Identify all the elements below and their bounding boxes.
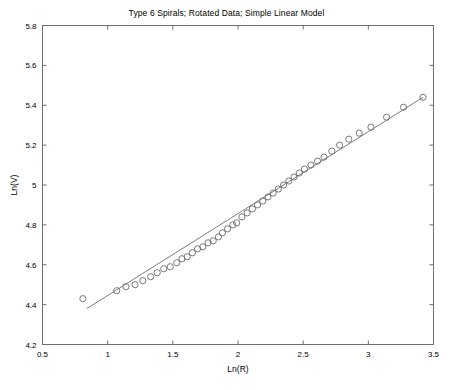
- y-tick-label: 5.8: [25, 22, 37, 31]
- x-axis-title: Ln(R): [227, 364, 248, 374]
- x-tick-label: 1.5: [167, 350, 179, 359]
- y-axis-tick-labels: 4.24.44.64.855.25.45.65.8: [25, 22, 37, 350]
- data-point: [301, 166, 307, 172]
- data-point: [329, 148, 335, 154]
- y-tick-label: 5: [32, 181, 37, 190]
- data-point: [215, 234, 221, 240]
- y-tick-label: 5.4: [25, 101, 37, 110]
- y-tick-label: 4.8: [25, 221, 37, 230]
- data-point: [234, 220, 240, 226]
- x-tick-label: 2.5: [298, 350, 310, 359]
- data-point: [337, 142, 343, 148]
- data-point: [132, 282, 138, 288]
- chart-figure: Type 6 Spirals; Rotated Data; Simple Lin…: [0, 0, 453, 390]
- x-tick-label: 1: [105, 350, 110, 359]
- y-axis-title: Ln(V): [9, 174, 19, 195]
- data-point: [154, 270, 160, 276]
- data-point: [148, 274, 154, 280]
- data-point: [140, 278, 146, 284]
- data-point: [80, 296, 86, 302]
- data-point: [383, 114, 389, 120]
- x-tick-label: 0.5: [37, 350, 49, 359]
- y-tick-label: 4.4: [25, 301, 37, 310]
- data-point: [346, 136, 352, 142]
- x-tick-label: 3: [366, 350, 371, 359]
- y-tick-label: 5.2: [25, 141, 37, 150]
- x-tick-label: 3.5: [428, 350, 440, 359]
- data-point: [161, 266, 167, 272]
- y-tick-label: 5.6: [25, 61, 37, 70]
- data-point: [368, 124, 374, 130]
- data-point: [230, 222, 236, 228]
- x-tick-label: 2: [236, 350, 241, 359]
- data-point: [356, 130, 362, 136]
- scatter-plot: 0.511.522.533.5 4.24.44.64.855.25.45.65.…: [0, 0, 453, 390]
- x-axis-ticks: [43, 26, 434, 345]
- x-axis-tick-labels: 0.511.522.533.5: [37, 350, 440, 359]
- y-tick-label: 4.2: [25, 341, 37, 350]
- data-point: [167, 264, 173, 270]
- data-point-markers: [80, 94, 426, 302]
- y-tick-label: 4.6: [25, 261, 37, 270]
- y-axis-ticks: [43, 26, 434, 345]
- plot-axes-frame: [43, 26, 434, 345]
